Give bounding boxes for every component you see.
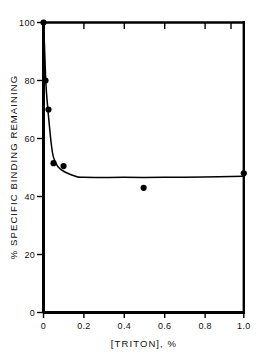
data-point (40, 19, 46, 25)
data-point (42, 77, 48, 83)
chart-figure: 0 20 40 60 80 100 0 0.2 0.4 (0, 0, 267, 355)
data-point (241, 170, 247, 176)
x-tick-label-1-0: 1.0 (237, 321, 250, 331)
x-axis-title: [TRITON], % (111, 338, 177, 349)
y-tick-label-40: 40 (24, 192, 35, 202)
data-point (60, 163, 66, 169)
y-tick-label-20: 20 (24, 250, 35, 260)
y-axis-title: % SPECIFIC BINDING REMAINING (8, 75, 19, 259)
data-point (141, 185, 147, 191)
x-tick-label-0-6: 0.6 (158, 321, 171, 331)
data-point (45, 106, 51, 112)
x-tick-label-0-2: 0.2 (77, 321, 90, 331)
x-tick-label-0: 0 (41, 321, 46, 331)
binding-vs-triton-chart: 0 20 40 60 80 100 0 0.2 0.4 (0, 0, 267, 355)
data-point (50, 160, 56, 166)
y-tick-label-60: 60 (24, 134, 35, 144)
x-tick-label-0-8: 0.8 (198, 321, 211, 331)
x-tick-label-0-4: 0.4 (118, 321, 131, 331)
y-tick-label-0: 0 (30, 308, 35, 318)
y-tick-label-80: 80 (24, 76, 35, 86)
y-tick-label-100: 100 (19, 18, 35, 28)
